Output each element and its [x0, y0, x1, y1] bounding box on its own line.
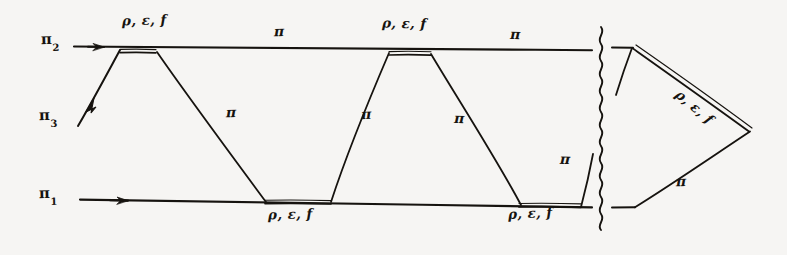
pi3-leg	[78, 50, 120, 126]
diagram-svg	[0, 0, 787, 255]
label-exchange-diagonal-2: π	[361, 107, 372, 121]
label-vertex-top-2-text: ρ, ε, f	[382, 17, 427, 31]
label-pi1: π1	[39, 186, 57, 204]
label-vertex-bottom-2: ρ, ε, f	[508, 207, 553, 221]
label-vertex-bottom-1: ρ, ε, f	[268, 208, 313, 222]
label-exchange-triangle-leg: π	[676, 174, 687, 188]
label-vertex-bottom-2-text: ρ, ε, f	[508, 206, 553, 222]
wavy-cut-line	[600, 27, 603, 230]
label-exchange-top-2: π	[510, 27, 521, 41]
label-pi3-base: π	[39, 106, 51, 124]
triangle-upper-double-line	[633, 45, 752, 132]
top-vertex-2	[389, 51, 431, 55]
triangle-inner-leg	[616, 48, 632, 95]
top-vertex-1	[120, 49, 156, 53]
label-vertex-bottom-1-text: ρ, ε, f	[268, 207, 313, 222]
label-exchange-diagonal-1-text: π	[226, 105, 237, 119]
label-exchange-top-2-text: π	[510, 27, 521, 41]
diagonal-1	[157, 52, 266, 202]
label-exchange-diagonal-1: π	[226, 105, 237, 119]
label-pi2-base: π	[41, 30, 53, 48]
label-pi3: π3	[39, 108, 57, 126]
diagonal-3	[431, 54, 521, 205]
label-exchange-diagonal-3-text: π	[454, 111, 465, 125]
label-exchange-diagonal-4-text: π	[560, 152, 571, 166]
label-pi1-base: π	[39, 184, 51, 202]
label-exchange-triangle-leg-text: π	[676, 174, 687, 188]
label-vertex-top-1-text: ρ, ε, f	[122, 13, 167, 28]
label-exchange-diagonal-4: π	[560, 152, 571, 166]
label-exchange-diagonal-3: π	[454, 111, 465, 125]
label-vertex-top-2: ρ, ε, f	[382, 17, 427, 31]
label-pi2: π2	[41, 32, 59, 50]
diagonal-2	[331, 53, 389, 202]
triangle-lower-leg	[635, 132, 750, 208]
label-pi2-sub: 2	[52, 42, 59, 53]
label-pi1-sub: 1	[50, 196, 57, 207]
diagonal-4	[581, 154, 593, 207]
diagram-canvas-container: π2 π3 π1 π π π π π π π ρ, ε, f ρ, ε, f ρ…	[0, 0, 787, 255]
label-exchange-top-1-text: π	[274, 24, 285, 38]
label-vertex-top-1: ρ, ε, f	[122, 14, 167, 28]
label-pi3-sub: 3	[50, 118, 57, 129]
label-exchange-top-1: π	[274, 24, 285, 38]
label-exchange-diagonal-2-text: π	[361, 107, 372, 121]
